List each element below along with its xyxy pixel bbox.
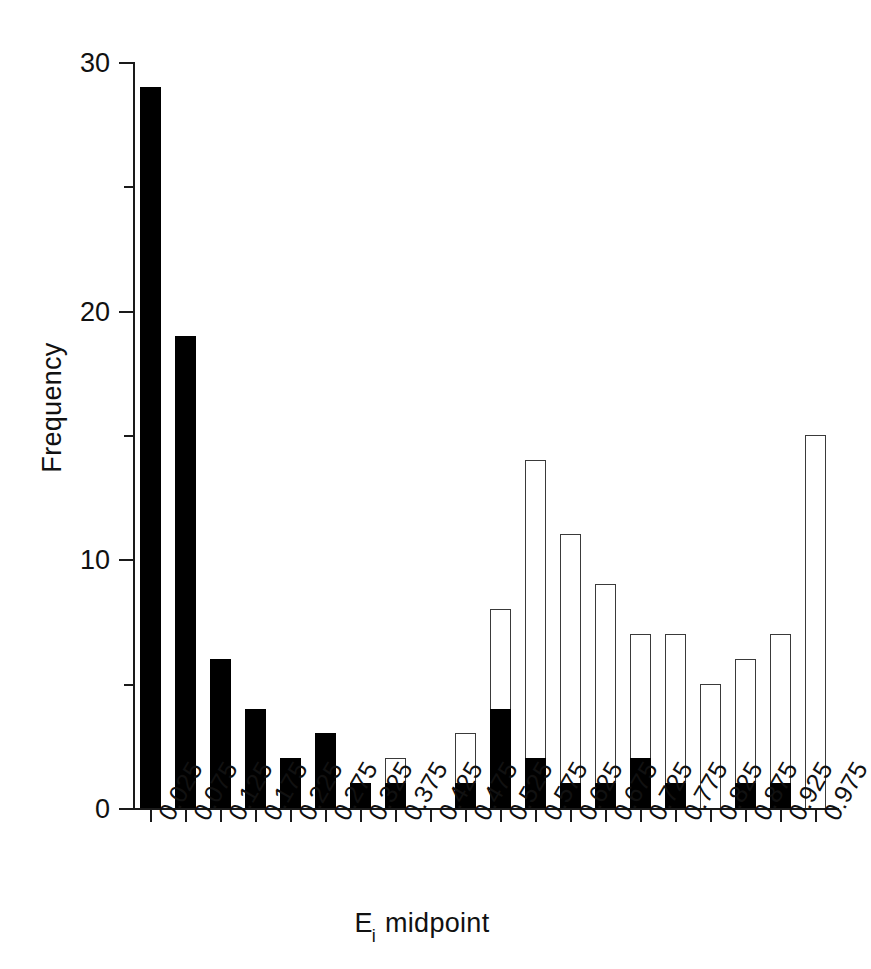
x-axis-title: Ei midpoint [0, 908, 844, 943]
bar-0.025 [140, 87, 161, 808]
bar-segment-white-0.525 [490, 609, 511, 708]
y-axis-tick-label-10: 10 [80, 547, 110, 574]
bar-0.975 [805, 435, 826, 808]
x-axis-title-subscript: i [372, 926, 376, 946]
bar-segment-white-0.575 [525, 460, 546, 758]
y-axis-tick-30: 30 [119, 62, 133, 64]
bar-0.075 [175, 336, 196, 808]
x-axis-title-suffix: midpoint [377, 908, 489, 938]
x-axis-title-base: E [355, 908, 373, 938]
y-axis-tick-label-30: 30 [80, 50, 110, 77]
y-axis-title: Frequency [37, 298, 68, 518]
bar-segment-white-0.725 [630, 634, 651, 758]
y-axis-tick-label-20: 20 [80, 298, 110, 325]
y-axis-minor-tick-15 [124, 435, 133, 437]
bar-segment-white-0.675 [595, 584, 616, 783]
bar-segment-black-0.025 [140, 87, 161, 808]
bar-segment-black-0.075 [175, 336, 196, 808]
y-axis-tick-0: 0 [119, 808, 133, 810]
y-axis-tick-20: 20 [119, 311, 133, 313]
bar-0.575 [525, 460, 546, 808]
plot-area: 0102030 [133, 62, 833, 808]
bar-segment-white-0.975 [805, 435, 826, 808]
y-axis-minor-tick-25 [124, 186, 133, 188]
y-axis-tick-label-0: 0 [95, 796, 110, 823]
bar-segment-white-0.625 [560, 534, 581, 783]
y-axis-minor-tick-5 [124, 684, 133, 686]
y-axis-tick-10: 10 [119, 559, 133, 561]
x-tick-label-container: 0.0250.0750.1250.1750.2250.2750.3250.375… [133, 812, 833, 912]
bar-series-container [133, 62, 833, 808]
